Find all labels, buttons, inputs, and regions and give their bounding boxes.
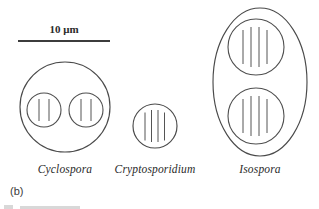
- scale-bar-label: 10 μm: [49, 23, 78, 35]
- coccidian-size-comparison-diagram: 10 μm Cyclospora Cryp: [0, 0, 319, 209]
- organism-label-isospora: Isospora: [238, 163, 281, 176]
- organism-label-cyclospora: Cyclospora: [38, 163, 93, 176]
- panel-caption: (b): [10, 185, 23, 197]
- cropped-text-remnant: [4, 205, 13, 209]
- figure-panel: 10 μm Cyclospora Cryp: [0, 0, 319, 209]
- organism-label-cryptosporidium: Cryptosporidium: [115, 163, 196, 176]
- cropped-text-remnant: [20, 206, 80, 209]
